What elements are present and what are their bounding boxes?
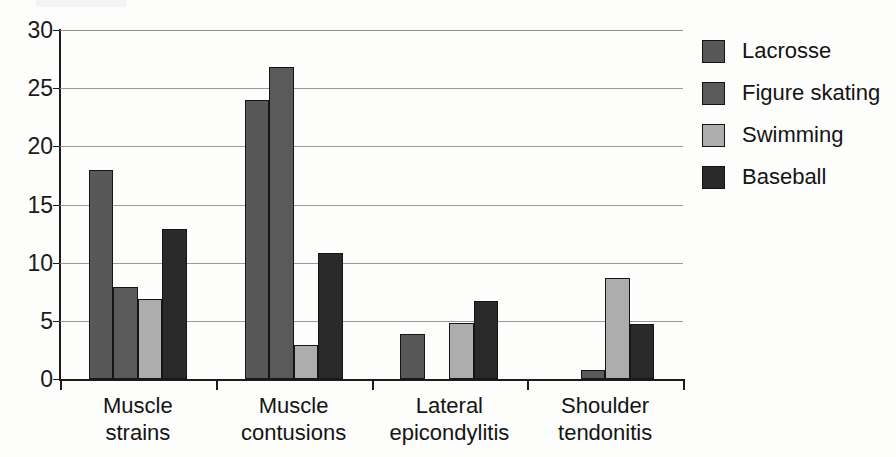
x-axis-category-label-line: Muscle <box>259 393 329 418</box>
x-axis-category-label-line: Muscle <box>103 393 173 418</box>
bar <box>162 229 187 379</box>
y-axis-tick-label: 20 <box>27 133 53 160</box>
y-axis-tick-mark <box>53 379 60 380</box>
bar <box>294 345 319 379</box>
y-axis-tick-label: 25 <box>27 75 53 102</box>
x-axis-category-label-line: contusions <box>216 419 372 446</box>
gridline <box>60 30 683 31</box>
bar <box>605 278 630 379</box>
y-axis-tick-label: 5 <box>40 307 53 334</box>
bar <box>474 301 499 379</box>
y-axis-tick-label: 30 <box>27 17 53 44</box>
bar <box>630 324 655 379</box>
y-axis-tick-mark <box>53 205 60 206</box>
x-axis-tick-mark <box>60 379 62 390</box>
x-axis-category-label: Lateralepicondylitis <box>372 392 528 446</box>
y-axis-tick-mark <box>53 146 60 147</box>
y-axis-tick-label: 0 <box>40 366 53 393</box>
x-axis-category-label: Musclestrains <box>60 392 216 446</box>
legend-color-swatch <box>702 166 725 189</box>
legend-color-swatch <box>702 40 725 63</box>
plot-area: 051015202530 <box>60 30 683 379</box>
y-axis-tick-mark <box>53 263 60 264</box>
gridline <box>60 263 683 264</box>
legend-item: Figure skating <box>702 72 880 114</box>
scan-artifact <box>36 0 126 7</box>
legend-item-label: Baseball <box>742 164 826 190</box>
bar <box>113 287 138 379</box>
legend-color-swatch <box>702 124 725 147</box>
bar <box>89 170 114 379</box>
legend-item: Swimming <box>702 114 880 156</box>
legend-item-label: Figure skating <box>742 80 880 106</box>
x-axis-category-label-line: Lateral <box>416 393 483 418</box>
x-axis-category-label-line: tendonitis <box>527 419 683 446</box>
x-axis-category-label-line: epicondylitis <box>372 419 528 446</box>
bar <box>138 299 163 379</box>
y-axis-tick-mark <box>53 88 60 89</box>
y-axis-tick-mark <box>53 321 60 322</box>
y-axis-tick-label: 10 <box>27 249 53 276</box>
bar <box>581 370 606 379</box>
bar <box>245 100 270 379</box>
gridline <box>60 205 683 206</box>
legend-color-swatch <box>702 82 725 105</box>
x-axis-category-label: Shouldertendonitis <box>527 392 683 446</box>
legend-item: Lacrosse <box>702 30 880 72</box>
legend-item-label: Swimming <box>742 122 843 148</box>
gridline <box>60 88 683 89</box>
chart-legend: LacrosseFigure skatingSwimmingBaseball <box>702 30 880 198</box>
x-axis-tick-mark <box>372 379 374 390</box>
bar <box>269 67 294 379</box>
x-axis-category-label-line: strains <box>60 419 216 446</box>
x-axis-tick-mark <box>683 379 685 390</box>
x-axis-category-label: Musclecontusions <box>216 392 372 446</box>
y-axis-tick-label: 15 <box>27 191 53 218</box>
x-axis-tick-mark <box>527 379 529 390</box>
bar <box>400 334 425 379</box>
gridline <box>60 146 683 147</box>
y-axis-tick-mark <box>53 30 60 31</box>
legend-item-label: Lacrosse <box>742 38 831 64</box>
bar-chart-figure: 051015202530 MusclestrainsMusclecontusio… <box>0 0 896 457</box>
x-axis-category-label-line: Shoulder <box>561 393 649 418</box>
legend-item: Baseball <box>702 156 880 198</box>
bar <box>449 323 474 379</box>
bar <box>318 253 343 379</box>
x-axis-tick-mark <box>216 379 218 390</box>
